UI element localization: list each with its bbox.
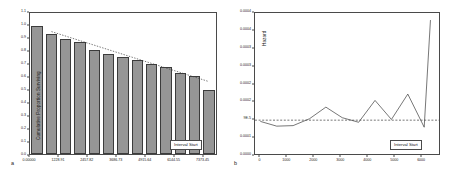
survival-analysis-figure: 0.00.10.20.30.40.50.60.70.80.91.01.1 0.0… xyxy=(0,0,449,178)
panel-a-xtick-mark xyxy=(173,155,174,157)
panel-a-ytick-mark xyxy=(27,129,29,130)
panel-a-ytick-label: 1.0 xyxy=(21,23,26,27)
panel-a-x-axis-ticks: 0.000001228.912457.823686.734915.646144.… xyxy=(29,159,217,169)
panel-a-ytick-mark xyxy=(27,103,29,104)
panel-b-xtick-mark xyxy=(313,155,314,157)
panel-a-xtick-mark xyxy=(144,155,145,157)
panel-b-x-axis-ticks: 0100020003000400050006000 xyxy=(254,159,440,169)
panel-b-hazard-series xyxy=(255,13,439,154)
panel-b-xtick-label: 2000 xyxy=(309,159,317,163)
panel-a-xtick-label: 4915.64 xyxy=(138,159,151,163)
panel-b-xtick-label: 6000 xyxy=(417,159,425,163)
panel-b-y-axis-title: Hazard xyxy=(262,31,267,46)
panel-b-xtick-mark xyxy=(367,155,368,157)
panel-a-ytick-label: 0.3 xyxy=(21,114,26,118)
panel-a-ytick-label: 0.8 xyxy=(21,49,26,53)
panel-a-ytick-mark xyxy=(27,51,29,52)
panel-b-ytick-label: 9E-5 xyxy=(243,117,251,121)
panel-b-ytick-mark xyxy=(252,83,254,84)
panel-b-ytick-mark xyxy=(252,119,254,120)
panel-b-ytick-mark xyxy=(252,47,254,48)
panel-a-ytick-mark xyxy=(27,142,29,143)
panel-b-plot-area xyxy=(254,12,440,155)
panel-b-y-axis-ticks: 0.00000.00019E-50.00020.00020.00030.0003… xyxy=(224,12,253,155)
panel-b-letter: b xyxy=(234,161,237,166)
panel-a-xtick-label: 3686.73 xyxy=(109,159,122,163)
panel-a-xtick-mark xyxy=(57,155,58,157)
panel-a-xtick-label: 2457.82 xyxy=(80,159,93,163)
panel-a-legend-interval-start: Interval Start xyxy=(170,140,202,150)
panel-a-plot-area xyxy=(29,12,217,155)
panel-a-ytick-mark xyxy=(27,12,29,13)
panel-b-xtick-label: 1000 xyxy=(282,159,290,163)
panel-a-xtick-mark xyxy=(202,155,203,157)
panel-a-ytick-label: 0.2 xyxy=(21,127,26,131)
panel-a-ytick-mark xyxy=(27,116,29,117)
panel-b-xtick-mark xyxy=(394,155,395,157)
panel-b-xtick-label: 3000 xyxy=(336,159,344,163)
panel-a-xtick-label: 6144.55 xyxy=(167,159,180,163)
panel-b-xtick-label: 5000 xyxy=(390,159,398,163)
panel-a-xtick-mark xyxy=(86,155,87,157)
panel-a-cumulative-survival: 0.00.10.20.30.40.50.60.70.80.91.01.1 0.0… xyxy=(0,0,224,178)
panel-b-ytick-mark xyxy=(252,101,254,102)
panel-a-ytick-label: 1.1 xyxy=(21,10,26,14)
panel-b-ytick-label: 0.0004 xyxy=(240,10,251,14)
panel-a-xtick-mark xyxy=(29,155,30,157)
panel-a-ytick-label: 0.5 xyxy=(21,88,26,92)
panel-a-y-axis-title: Cumulative Proportion Surviving xyxy=(36,71,41,140)
panel-b-ytick-label: 0.0002 xyxy=(240,82,251,86)
panel-b-ytick-mark xyxy=(252,155,254,156)
panel-b-ytick-label: 0.0000 xyxy=(240,153,251,157)
panel-b-hazard: 0.00000.00019E-50.00020.00020.00030.0003… xyxy=(224,0,449,178)
panel-a-ytick-mark xyxy=(27,90,29,91)
panel-a-trend-overlay xyxy=(30,13,216,154)
panel-b-xtick-mark xyxy=(259,155,260,157)
panel-a-xtick-label: 0.00000 xyxy=(23,159,36,163)
panel-b-xtick-mark xyxy=(286,155,287,157)
panel-b-xtick-mark xyxy=(421,155,422,157)
panel-a-ytick-mark xyxy=(27,77,29,78)
panel-a-ytick-mark xyxy=(27,38,29,39)
panel-b-xtick-label: 4000 xyxy=(363,159,371,163)
panel-b-ytick-mark xyxy=(252,137,254,138)
panel-b-ytick-label: 0.0004 xyxy=(240,28,251,32)
panel-a-ytick-mark xyxy=(27,64,29,65)
panel-a-xtick-label: 1228.91 xyxy=(51,159,64,163)
panel-b-ytick-label: 0.0003 xyxy=(240,46,251,50)
panel-a-ytick-label: 0.4 xyxy=(21,101,26,105)
panel-a-ytick-mark xyxy=(27,25,29,26)
panel-b-ytick-mark xyxy=(252,29,254,30)
panel-a-xtick-mark xyxy=(115,155,116,157)
panel-a-xtick-label: 7373.45 xyxy=(196,159,209,163)
panel-a-ytick-label: 0.7 xyxy=(21,62,26,66)
panel-a-ytick-label: 0.0 xyxy=(21,153,26,157)
panel-b-xtick-label: 0 xyxy=(258,159,260,163)
panel-a-ytick-label: 0.1 xyxy=(21,140,26,144)
panel-a-y-axis-ticks: 0.00.10.20.30.40.50.60.70.80.91.01.1 xyxy=(0,12,28,155)
panel-a-ytick-label: 0.9 xyxy=(21,36,26,40)
panel-b-ytick-label: 0.0001 xyxy=(240,135,251,139)
panel-b-ytick-label: 0.0002 xyxy=(240,100,251,104)
panel-b-ytick-label: 0.0003 xyxy=(240,64,251,68)
panel-b-ytick-mark xyxy=(252,65,254,66)
panel-b-legend-interval-start: Interval Start xyxy=(390,140,422,150)
panel-b-xtick-mark xyxy=(340,155,341,157)
panel-a-ytick-label: 0.6 xyxy=(21,75,26,79)
panel-b-ytick-mark xyxy=(252,12,254,13)
panel-a-letter: a xyxy=(11,161,14,166)
